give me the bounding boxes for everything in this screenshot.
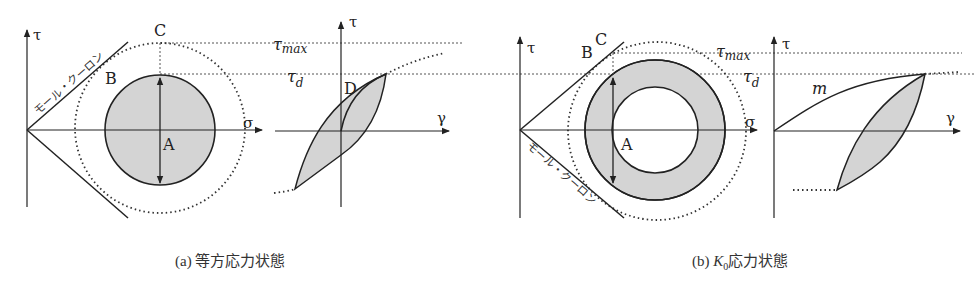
tau-label-b2: τ <box>782 35 790 53</box>
tau-label-a: τ <box>33 26 41 44</box>
tau-d-label-a: τd <box>287 67 304 90</box>
tau-label-a2: τ <box>349 13 357 31</box>
panel-b-hysteresis: τ γ m <box>774 35 960 218</box>
m-curve-label: m <box>812 79 827 98</box>
mohr-coulomb-label-a: モール・クーロン <box>31 50 106 118</box>
point-c-a: C <box>154 21 166 40</box>
point-a-a: A <box>162 135 175 154</box>
sigma-label-b: σ <box>745 113 755 131</box>
point-b-b: B <box>581 43 593 62</box>
caption-b-k: K <box>713 253 723 269</box>
gamma-label-b: γ <box>946 109 955 127</box>
caption-b-text: 応力状態 <box>728 253 788 269</box>
caption-a-prefix: (a) <box>175 253 192 269</box>
point-b-a: B <box>105 69 117 88</box>
point-a-b: A <box>620 135 633 154</box>
panel-a-hysteresis: τ γ D τmax τd <box>273 13 449 207</box>
point-c-b: C <box>595 30 607 49</box>
caption-a: (a) 等方応力状態 <box>175 249 285 270</box>
stress-state-figure: τ σ C B A モール・クーロン τ γ D τmax τd <box>0 0 975 281</box>
tau-d-label-b: τd <box>743 67 760 90</box>
hysteresis-loop-b <box>837 74 925 190</box>
panel-a-mohr: τ σ C B A モール・クーロン <box>27 21 262 218</box>
gamma-label-a: γ <box>437 109 446 127</box>
tau-max-label-a: τmax <box>273 35 307 56</box>
caption-a-text: 等方応力状態 <box>195 253 285 269</box>
sigma-label-a: σ <box>243 114 253 132</box>
tau-label-b: τ <box>527 39 535 57</box>
tau-max-label-b: τmax <box>716 42 750 63</box>
panel-b-mohr: τ σ C B A モール・クーロン τmax τd <box>520 30 760 220</box>
caption-b-prefix: (b) <box>692 253 710 269</box>
caption-b: (b) K0応力状態 <box>692 249 788 272</box>
point-d-a: D <box>344 79 357 98</box>
